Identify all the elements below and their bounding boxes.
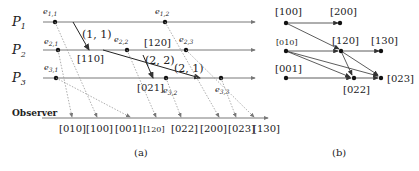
node-label-130: [130] — [371, 35, 398, 46]
event-label-e22: e2,2 — [114, 35, 128, 45]
event-label-e21: e2,1 — [44, 37, 58, 47]
observer-entry-200: [200] — [200, 123, 227, 134]
clock-label-021: [021] — [137, 82, 164, 93]
observer-entry-130: [130] — [253, 123, 280, 134]
process-label-p1: P1 — [11, 14, 26, 31]
process-label-p2: P2 — [11, 42, 26, 59]
message-label-2: (2, 2) — [145, 54, 175, 67]
node-label-120: [120] — [332, 35, 359, 46]
process-label-p3: P3 — [11, 70, 26, 87]
clock-label-120: [120] — [144, 37, 171, 48]
node-label-023: [023] — [387, 73, 414, 84]
node-100 — [284, 21, 288, 25]
node-010 — [284, 49, 288, 53]
caption-a: (a) — [134, 147, 148, 158]
observer-entry-010: [010] — [59, 123, 86, 134]
observer-entry-120: [120] — [143, 125, 165, 134]
event-label-e32: e3,2 — [163, 86, 177, 96]
node-label-200: [200] — [330, 6, 357, 17]
clock-label-110: [110] — [77, 53, 104, 64]
event-label-e11: e1,1 — [43, 7, 57, 17]
observer-entry-100: [100] — [86, 123, 113, 134]
node-200 — [338, 21, 342, 25]
node-label-100: [100] — [275, 6, 302, 17]
node-120 — [339, 49, 343, 53]
observer-label: Observer — [12, 108, 58, 118]
message-label-1: (1, 1) — [82, 28, 112, 41]
node-label-001: [001] — [275, 63, 302, 74]
node-022 — [352, 76, 356, 80]
observer-entry-001: [001] — [115, 123, 142, 134]
node-130 — [379, 49, 383, 53]
node-label-010: [010] — [276, 38, 298, 47]
observer-entry-022: [022] — [171, 123, 198, 134]
event-label-e23: e2,3 — [179, 35, 193, 45]
event-label-e33: e3,3 — [215, 85, 229, 95]
node-023 — [379, 76, 383, 80]
panel-a: P1 P2 P3 Observer e1,1 e1,2 e2,1 e2,2 e2… — [11, 7, 280, 158]
event-label-e12: e1,2 — [155, 7, 169, 17]
node-001 — [284, 76, 288, 80]
observer-entry-023: [023] — [228, 123, 255, 134]
panel-b: [100] [200] [010] [120] [130] [001] [022… — [275, 6, 414, 158]
event-label-e31: e3,1 — [44, 63, 58, 73]
node-label-022: [022] — [343, 84, 370, 95]
diagram-canvas: P1 P2 P3 Observer e1,1 e1,2 e2,1 e2,2 e2… — [0, 0, 419, 171]
caption-b: (b) — [332, 147, 346, 158]
